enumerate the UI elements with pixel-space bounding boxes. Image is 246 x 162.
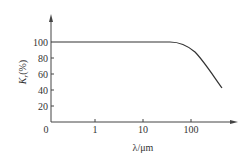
x-tick-10: 10 [138,124,148,135]
kr-curve [51,42,222,88]
y-tick-20: 20 [38,101,48,112]
y-tick-40: 40 [38,85,48,96]
y-axis-label: Kr(%) [17,60,30,85]
x-tick-0: 0 [44,124,49,135]
x-axis-label: λ/μm [133,142,154,153]
y-tick-100: 100 [33,37,48,48]
x-tick-1: 1 [93,124,98,135]
y-axis-arrow-icon [49,14,53,22]
x-axis-arrow-icon [230,120,238,124]
chart: 100 80 60 40 20 Kr(%) 0 1 10 100 λ/μm [0,0,246,162]
svg-text:Kr(%): Kr(%) [17,60,30,85]
x-tick-100: 100 [184,124,199,135]
x-axis: 0 1 10 100 λ/μm [44,119,239,153]
y-tick-60: 60 [38,69,48,80]
y-axis: 100 80 60 40 20 Kr(%) [17,14,54,122]
y-tick-80: 80 [38,53,48,64]
